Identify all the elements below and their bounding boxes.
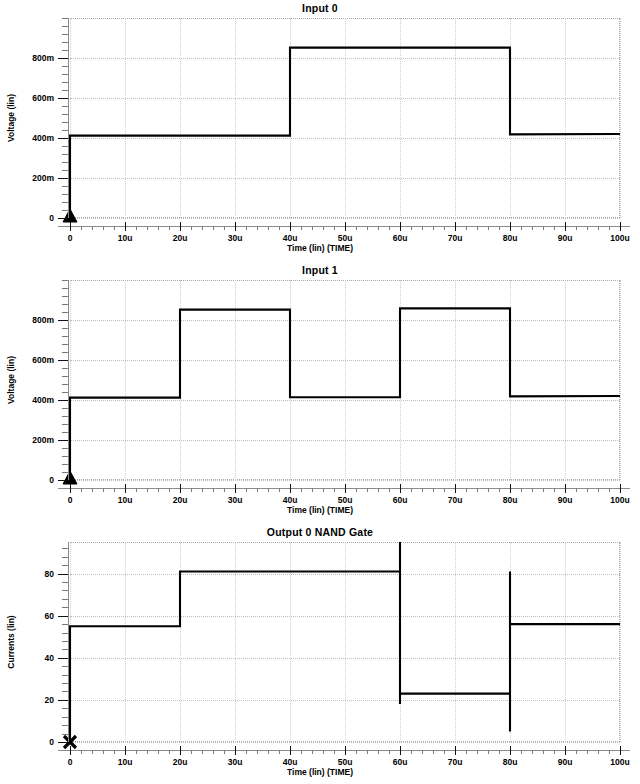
y-axis-minor-tick: [62, 154, 68, 155]
y-axis-tick: [58, 400, 68, 401]
y-axis-minor-tick: [62, 448, 68, 449]
x-axis-minor-tick: [279, 750, 280, 754]
y-axis-minor-tick: [62, 607, 68, 608]
x-axis-minor-tick: [246, 750, 247, 754]
x-axis-tick: [70, 746, 71, 755]
x-axis-tick: [455, 484, 456, 493]
x-axis-minor-tick: [246, 488, 247, 492]
y-axis-minor-tick: [62, 26, 68, 27]
y-axis-tick: [58, 574, 68, 575]
y-axis-minor-tick: [62, 186, 68, 187]
x-axis-minor-tick: [257, 488, 258, 492]
x-axis-minor-tick: [257, 750, 258, 754]
y-axis-minor-tick: [62, 280, 68, 281]
x-axis-minor-tick: [389, 226, 390, 230]
x-axis-tick: [290, 746, 291, 755]
y-axis-tick: [58, 218, 68, 219]
y-axis-minor-tick: [62, 384, 68, 385]
x-axis-minor-tick: [312, 750, 313, 754]
y-axis-minor-tick: [62, 548, 68, 549]
y-axis-minor-tick: [62, 641, 68, 642]
x-axis-minor-tick: [466, 750, 467, 754]
x-axis-tick-label: 70u: [448, 233, 463, 243]
y-axis-minor-tick: [62, 106, 68, 107]
y-axis-spine: [68, 280, 69, 480]
x-axis-minor-tick: [433, 488, 434, 492]
x-axis-tick-label: 10u: [118, 495, 133, 505]
y-axis-minor-tick: [62, 565, 68, 566]
y-axis-tick-label: 80: [0, 569, 54, 579]
y-axis-tick: [58, 58, 68, 59]
trace-path: [70, 48, 620, 218]
x-axis-title: Time (lin) (TIME): [0, 243, 640, 253]
plot-area[interactable]: [70, 280, 620, 480]
x-axis-minor-tick: [191, 488, 192, 492]
x-axis-tick: [290, 222, 291, 231]
x-axis-minor-tick: [312, 488, 313, 492]
y-axis-tick: [58, 742, 68, 743]
y-axis-tick: [58, 700, 68, 701]
x-axis-minor-tick: [367, 226, 368, 230]
x-axis-tick: [455, 746, 456, 755]
x-axis-minor-tick: [609, 750, 610, 754]
x-axis-tick-label: 10u: [118, 233, 133, 243]
y-axis-tick-label: 200m: [0, 173, 54, 183]
x-axis-minor-tick: [576, 226, 577, 230]
x-axis-tick: [400, 746, 401, 755]
x-axis-tick: [125, 222, 126, 231]
x-axis-minor-tick: [576, 488, 577, 492]
x-axis-minor-tick: [598, 226, 599, 230]
y-axis-tick: [58, 616, 68, 617]
x-axis-minor-tick: [213, 226, 214, 230]
y-axis-tick-label: 800m: [0, 315, 54, 325]
x-axis-minor-tick: [334, 226, 335, 230]
x-axis-minor-tick: [268, 226, 269, 230]
x-axis-minor-tick: [477, 226, 478, 230]
y-axis-minor-tick: [62, 582, 68, 583]
x-axis-minor-tick: [389, 750, 390, 754]
x-axis-tick-label: 60u: [393, 495, 408, 505]
y-axis-spine: [68, 542, 69, 742]
x-axis-spine: [58, 488, 630, 489]
x-axis-minor-tick: [389, 488, 390, 492]
y-axis-minor-tick: [62, 557, 68, 558]
plot-area[interactable]: [70, 542, 620, 742]
plot-area[interactable]: [70, 18, 620, 218]
x-axis-minor-tick: [598, 750, 599, 754]
x-axis-minor-tick: [444, 750, 445, 754]
x-axis-minor-tick: [466, 488, 467, 492]
x-axis-tick-label: 50u: [338, 757, 353, 767]
x-axis-tick-label: 20u: [173, 233, 188, 243]
x-axis-tick-label: 20u: [173, 757, 188, 767]
x-axis-minor-tick: [422, 750, 423, 754]
x-axis-minor-tick: [158, 488, 159, 492]
x-axis-tick: [125, 484, 126, 493]
x-axis-tick: [620, 746, 621, 755]
y-axis-tick-label: 600m: [0, 355, 54, 365]
x-axis-minor-tick: [521, 750, 522, 754]
y-axis-tick: [58, 360, 68, 361]
x-axis-minor-tick: [554, 750, 555, 754]
x-axis-minor-tick: [411, 226, 412, 230]
y-axis-minor-tick: [62, 312, 68, 313]
x-axis-tick-label: 0: [68, 757, 73, 767]
y-axis-tick: [58, 658, 68, 659]
y-axis-minor-tick: [62, 424, 68, 425]
x-axis-minor-tick: [422, 226, 423, 230]
x-axis-minor-tick: [103, 488, 104, 492]
x-axis-tick: [180, 746, 181, 755]
y-axis-minor-tick: [62, 691, 68, 692]
y-axis-minor-tick: [62, 296, 68, 297]
y-axis-tick-label: 400m: [0, 133, 54, 143]
y-axis-title: Voltage (lin): [6, 320, 16, 440]
y-axis-minor-tick: [62, 122, 68, 123]
x-axis-tick-label: 60u: [393, 757, 408, 767]
x-axis-minor-tick: [323, 226, 324, 230]
x-axis-tick: [400, 222, 401, 231]
x-axis-tick-label: 80u: [503, 757, 518, 767]
x-axis-tick: [510, 484, 511, 493]
x-axis-tick: [345, 746, 346, 755]
x-axis-tick: [345, 222, 346, 231]
x-axis-minor-tick: [499, 750, 500, 754]
gridline-vertical: [620, 280, 621, 480]
